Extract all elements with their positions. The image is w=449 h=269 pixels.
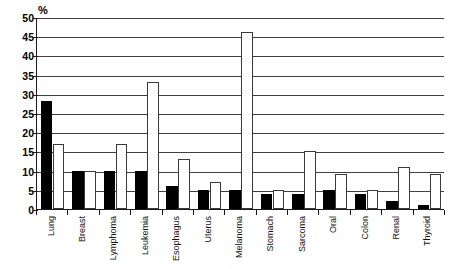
y-axis-tick-label: 0 (0, 205, 34, 215)
y-axis-tick-label: 40 (0, 51, 34, 61)
x-axis-tick-mark (413, 210, 414, 215)
bar-white (53, 144, 65, 209)
bar-chart: % 05101520253035404550 LungBreastLymphom… (0, 0, 449, 269)
bar-group (41, 18, 65, 209)
bars-layer (37, 18, 444, 209)
x-axis-label-sarcoma: Sarcoma (298, 216, 307, 252)
bar-black (292, 194, 304, 209)
bar-white (398, 167, 410, 209)
y-axis-tick-label: 35 (0, 71, 34, 81)
bar-white (304, 151, 316, 209)
bar-group (323, 18, 347, 209)
y-axis-tick-label: 10 (0, 167, 34, 177)
bar-white (430, 174, 442, 209)
y-axis-tick-label: 20 (0, 128, 34, 138)
x-axis-tick-mark (444, 210, 445, 215)
bar-white (241, 32, 253, 209)
bar-group (166, 18, 190, 209)
bar-black (166, 186, 178, 209)
bar-black (198, 190, 210, 209)
bar-white (367, 190, 379, 209)
y-axis-unit-label: % (38, 5, 48, 16)
x-axis-tick-mark (256, 210, 257, 215)
bar-black (104, 171, 116, 209)
x-axis-tick-mark (381, 210, 382, 215)
x-axis-tick-mark (130, 210, 131, 215)
bar-group (386, 18, 410, 209)
x-axis-tick-mark (318, 210, 319, 215)
y-axis-tick-labels: 05101520253035404550 (0, 0, 34, 269)
y-axis-tick-label: 5 (0, 186, 34, 196)
bar-black (229, 190, 241, 209)
x-axis-tick-mark (193, 210, 194, 215)
bar-black (135, 171, 147, 209)
x-axis-tick-mark (99, 210, 100, 215)
y-axis-tick-label: 50 (0, 13, 34, 23)
bar-group (292, 18, 316, 209)
bar-white (147, 82, 159, 209)
bar-group (418, 18, 442, 209)
bar-black (418, 205, 430, 209)
x-axis-tick-mark (224, 210, 225, 215)
x-axis-label-stomach: Stomach (266, 216, 275, 252)
bar-white (116, 144, 128, 209)
bar-group (261, 18, 285, 209)
bar-group (229, 18, 253, 209)
x-axis-label-esophagus: Esophagus (172, 216, 181, 261)
bar-white (84, 171, 96, 209)
y-axis-tick-label: 30 (0, 90, 34, 100)
x-axis-label-oral: Oral (329, 216, 338, 233)
bar-white (210, 182, 222, 209)
bar-group (72, 18, 96, 209)
x-axis-label-leukemia: Leukemia (141, 216, 150, 255)
bar-white (178, 159, 190, 209)
x-axis: LungBreastLymphomaLeukemiaEsophagusUteru… (36, 210, 444, 269)
x-axis-label-lung: Lung (47, 216, 56, 236)
x-axis-label-breast: Breast (78, 216, 87, 242)
x-axis-label-renal: Renal (392, 216, 401, 240)
x-axis-label-thyroid: Thyroid (423, 216, 432, 246)
bar-group (198, 18, 222, 209)
x-axis-tick-mark (350, 210, 351, 215)
x-axis-tick-mark (36, 210, 37, 215)
bar-black (41, 101, 53, 209)
x-axis-label-melanoma: Melanoma (235, 216, 244, 258)
bar-black (355, 194, 367, 209)
plot-area (36, 18, 444, 210)
bar-black (323, 190, 335, 209)
bar-black (261, 194, 273, 209)
x-axis-label-lymphoma: Lymphoma (109, 216, 118, 260)
bar-group (355, 18, 379, 209)
bar-black (72, 171, 84, 209)
x-axis-label-colon: Colon (361, 216, 370, 240)
bar-black (386, 201, 398, 209)
x-axis-tick-mark (287, 210, 288, 215)
y-axis-tick-label: 15 (0, 147, 34, 157)
bar-group (104, 18, 128, 209)
x-axis-tick-mark (162, 210, 163, 215)
bar-group (135, 18, 159, 209)
x-axis-label-uterus: Uterus (204, 216, 213, 243)
x-axis-tick-mark (67, 210, 68, 215)
y-axis-tick-label: 45 (0, 32, 34, 42)
bar-white (335, 174, 347, 209)
bar-white (273, 190, 285, 209)
y-axis-tick-label: 25 (0, 109, 34, 119)
